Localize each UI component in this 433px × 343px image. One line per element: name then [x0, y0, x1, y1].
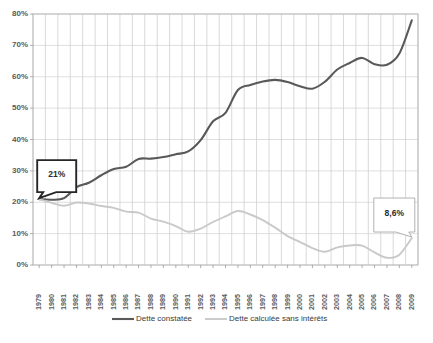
x-tick-label: 1989 [158, 294, 167, 310]
x-tick-label: 1983 [84, 294, 93, 310]
x-tick-label: 1991 [183, 294, 192, 310]
x-tick-label: 2008 [394, 294, 403, 310]
x-tick-label: 1998 [270, 294, 279, 310]
x-tick-label: 2004 [345, 294, 354, 310]
y-tick-label: 30% [12, 166, 28, 175]
y-tick-label: 80% [12, 9, 28, 18]
x-tick-label: 2009 [407, 294, 416, 310]
x-axis-tick-labels: 1979198019811982198319841985198619871988… [34, 265, 416, 310]
gridlines [33, 14, 418, 265]
x-tick-label: 2006 [369, 294, 378, 310]
y-tick-label: 70% [12, 40, 28, 49]
start-value-callout-label: 21% [48, 169, 65, 179]
y-axis-tick-labels: 0%10%20%30%40%50%60%70%80% [12, 9, 33, 269]
x-tick-label: 1988 [146, 294, 155, 310]
x-tick-label: 2002 [320, 294, 329, 310]
legend-label-2: Dette calculée sans intérêts [229, 314, 327, 323]
y-tick-label: 50% [12, 103, 28, 112]
chart-container: 0%10%20%30%40%50%60%70%80% 1979198019811… [0, 0, 433, 343]
x-tick-label: 1986 [121, 294, 130, 310]
x-tick-label: 1996 [245, 294, 254, 310]
legend-label-1: Dette constatée [136, 314, 193, 323]
x-tick-label: 1982 [71, 294, 80, 310]
x-tick-label: 1995 [233, 294, 242, 310]
x-tick-label: 1984 [96, 294, 105, 310]
x-tick-label: 1985 [109, 294, 118, 310]
x-tick-label: 2005 [357, 294, 366, 310]
y-tick-label: 40% [12, 135, 28, 144]
x-tick-label: 1999 [283, 294, 292, 310]
y-tick-label: 60% [12, 72, 28, 81]
x-tick-label: 1997 [258, 294, 267, 310]
x-tick-label: 1987 [133, 294, 142, 310]
chart-legend: Dette constatéeDette calculée sans intér… [112, 314, 327, 323]
x-tick-label: 2000 [295, 294, 304, 310]
x-tick-label: 2003 [332, 294, 341, 310]
y-tick-label: 10% [12, 229, 28, 238]
x-tick-label: 1981 [59, 294, 68, 310]
debt-ratio-line-chart: 0%10%20%30%40%50%60%70%80% 1979198019811… [0, 0, 433, 343]
x-tick-label: 1993 [208, 294, 217, 310]
x-tick-label: 2001 [307, 294, 316, 310]
x-tick-label: 1992 [196, 294, 205, 310]
x-tick-label: 2007 [382, 294, 391, 310]
y-tick-label: 0% [16, 260, 28, 269]
end-value-callout-label: 8,6% [385, 208, 405, 218]
x-tick-label: 1979 [34, 294, 43, 310]
y-tick-label: 20% [12, 197, 28, 206]
x-tick-label: 1994 [220, 294, 229, 310]
value-callouts: 21%8,6% [37, 160, 415, 237]
x-tick-label: 1990 [171, 294, 180, 310]
x-tick-label: 1980 [47, 294, 56, 310]
